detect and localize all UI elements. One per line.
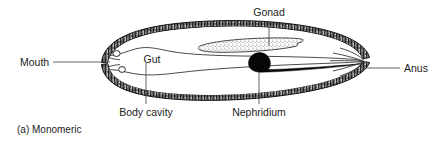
figure-caption: (a) Monomeric [17,124,81,135]
label-gut: Gut [144,53,161,65]
label-anus: Anus [404,62,428,74]
mouth-upper-vesicle [113,51,120,57]
label-gonad: Gonad [253,6,285,18]
mouth-lower-vesicle [119,67,126,73]
label-body-cavity: Body cavity [119,106,173,118]
anatomy-diagram: Mouth Anus Gonad Gut Body cavity Nephrid… [0,0,445,141]
gut-hindgut [330,61,363,62]
figure-container: Mouth Anus Gonad Gut Body cavity Nephrid… [0,0,445,141]
label-mouth: Mouth [20,56,49,68]
label-nephridium: Nephridium [232,106,286,118]
